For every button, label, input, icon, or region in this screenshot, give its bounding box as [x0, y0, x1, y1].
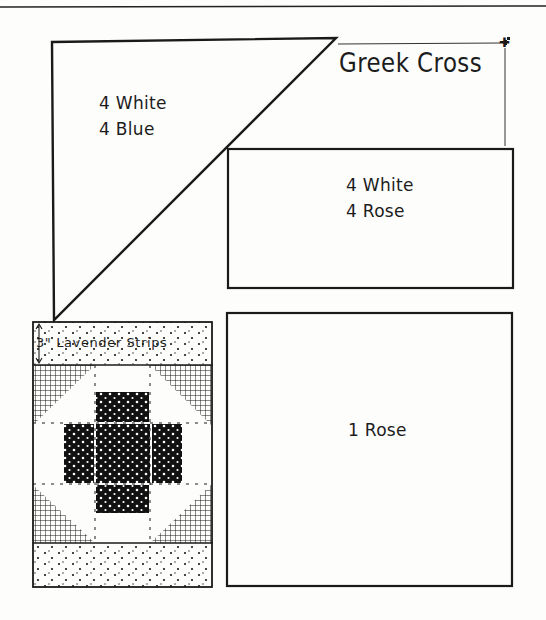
square-piece [227, 313, 512, 586]
square-label-line-1: 1 Rose [348, 417, 407, 443]
cross-right [152, 424, 182, 483]
cross-top [96, 392, 149, 422]
cross-bottom [96, 485, 149, 513]
rectangle-label-line-2: 4 Rose [346, 198, 414, 224]
triangle-label-line-1: 4 White [99, 90, 167, 116]
block-preview [33, 322, 213, 587]
corner-top-left [33, 365, 95, 425]
bottom-lavender-strip [33, 543, 212, 587]
square-label: 1 Rose [348, 417, 407, 443]
rectangle-label: 4 White 4 Rose [346, 172, 414, 224]
triangle-label: 4 White 4 Blue [99, 90, 167, 142]
corner-bottom-right [150, 485, 211, 543]
svg-text:✚: ✚ [499, 35, 510, 50]
strip-label: 3" Lavender Strips [36, 335, 167, 350]
triangle-piece [52, 38, 336, 320]
triangle-label-line-2: 4 Blue [99, 116, 167, 142]
quilt-pattern-drawing: ✚ [0, 0, 546, 620]
rectangle-label-line-1: 4 White [346, 172, 414, 198]
cross-left [64, 424, 94, 483]
top-rule [0, 6, 546, 7]
corner-bottom-left [33, 485, 95, 543]
corner-top-right [150, 365, 211, 425]
cross-center [96, 424, 150, 483]
pattern-title: Greek Cross [339, 47, 482, 78]
